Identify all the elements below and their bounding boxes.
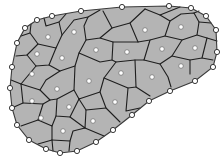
boundary-point (7, 85, 12, 90)
boundary-point (14, 122, 19, 127)
interior-point (61, 129, 66, 134)
interior-point (125, 50, 130, 55)
boundary-point (110, 127, 115, 132)
boundary-point (49, 13, 54, 18)
interior-point (67, 105, 72, 110)
interior-point (160, 47, 165, 52)
boundary-point (34, 17, 39, 22)
interior-point (60, 56, 65, 61)
boundary-point (74, 148, 79, 153)
boundary-point (93, 139, 98, 144)
interior-point (39, 116, 44, 121)
interior-point (87, 79, 92, 84)
boundary-point (166, 3, 171, 8)
boundary-point (119, 4, 124, 9)
boundary-point (210, 64, 215, 69)
interior-point (193, 46, 198, 51)
interior-point (35, 52, 40, 57)
interior-point (72, 30, 77, 35)
interior-point (94, 48, 99, 53)
boundary-point (129, 112, 134, 117)
interior-point (179, 64, 184, 69)
boundary-point (203, 13, 208, 18)
boundary-point (9, 105, 14, 110)
boundary-point (26, 137, 31, 142)
interior-point (30, 72, 35, 77)
boundary-point (22, 25, 27, 30)
interior-point (150, 75, 155, 80)
boundary-point (167, 88, 172, 93)
voronoi-diagram (0, 0, 224, 159)
boundary-point (78, 8, 83, 13)
interior-point (91, 119, 96, 124)
interior-point (46, 35, 51, 40)
boundary-point (192, 78, 197, 83)
interior-point (179, 25, 184, 30)
boundary-point (188, 5, 193, 10)
boundary-point (57, 150, 62, 155)
interior-point (143, 28, 148, 33)
interior-point (30, 99, 35, 104)
boundary-point (214, 49, 219, 54)
boundary-point (146, 98, 151, 103)
boundary-point (14, 40, 19, 45)
interior-point (55, 87, 60, 92)
interior-point (113, 100, 118, 105)
boundary-point (213, 27, 218, 32)
interior-point (119, 71, 124, 76)
boundary-point (9, 64, 14, 69)
boundary-point (43, 146, 48, 151)
